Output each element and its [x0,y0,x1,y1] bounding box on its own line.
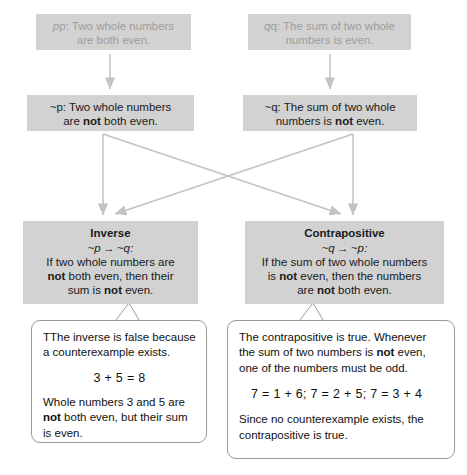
callout-right-paragraph-2: Since no counterexample exists, the cont… [239,412,444,443]
contrapositive-explanation-callout: The contrapositive is true. Whenever the… [227,320,455,459]
callout-left-tail [116,303,139,320]
emphasis-not: not [376,346,394,358]
right-arrow-icon: → [101,242,117,254]
contrapositive-line-1: If the sum of two whole numbers [251,255,438,269]
statement-not-p-line-2: are not both even. [33,114,188,128]
callout-left-paragraph-1: TThe inverse is false because a countere… [43,330,196,361]
statement-p-line-1: pp: Two whole numbers [42,19,185,33]
statement-box-p: pp: Two whole numbers are both even. [36,14,191,50]
emphasis-not: not [43,411,61,423]
right-arrow-icon: → [335,242,351,254]
contrapositive-box: Contrapositive ~q→~p: If the sum of two … [245,221,444,304]
statement-box-not-p: ~p: Two whole numbers are not both even. [27,95,194,131]
statement-not-q-line-2: numbers is not even. [249,114,411,128]
arrow-notp-cross-to-contrapositive [103,134,341,214]
logic-diagram-page: pp: Two whole numbers are both even. qq:… [0,0,467,475]
statement-box-q: qq: The sum of two whole numbers is even… [248,14,411,50]
inverse-line-2: not both even, then their [29,269,192,283]
emphasis-not: not [104,284,122,296]
contrapositive-heading: Contrapositive [251,226,438,240]
emphasis-not: not [83,115,101,127]
callout-right-equation: 7 = 1 + 6; 7 = 2 + 5; 7 = 3 + 4 [239,386,444,403]
callout-right-tail [300,303,323,320]
callout-left-equation: 3 + 5 = 8 [43,370,196,387]
statement-q-line-2: numbers is even. [254,33,405,47]
contrapositive-line-3: are not both even. [251,283,438,297]
contrapositive-line-2: is not even, then the numbers [251,269,438,283]
statement-q-line-1: qq: The sum of two whole [254,19,405,33]
inverse-heading: Inverse [29,226,192,240]
inverse-line-1: If two whole numbers are [29,255,192,269]
inverse-explanation-callout: TThe inverse is false because a countere… [31,320,207,443]
inverse-formula: ~p→~q: [29,241,192,255]
statement-p-line-2: are both even. [42,33,185,47]
emphasis-not: not [335,115,353,127]
statement-not-q-line-1: ~q: The sum of two whole [249,100,411,114]
arrow-notq-cross-to-inverse [115,134,353,214]
emphasis-not: not [279,270,297,282]
statement-not-p-line-1: ~p: Two whole numbers [33,100,188,114]
callout-left-paragraph-2: Whole numbers 3 and 5 are not both even,… [43,395,196,441]
emphasis-not: not [317,284,335,296]
inverse-line-3: sum is not even. [29,283,192,297]
contrapositive-formula: ~q→~p: [251,241,438,255]
inverse-box: Inverse ~p→~q: If two whole numbers are … [23,221,198,304]
statement-box-not-q: ~q: The sum of two whole numbers is not … [243,95,417,131]
callout-right-paragraph-1: The contrapositive is true. Whenever the… [239,330,444,376]
emphasis-not: not [48,270,66,282]
